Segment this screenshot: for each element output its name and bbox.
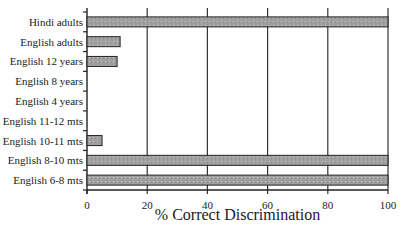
- bar: [87, 155, 388, 165]
- category-label: English 4 years: [15, 95, 83, 107]
- bar-chart: Hindi adultsEnglish adultsEnglish 12 yea…: [0, 0, 401, 234]
- x-axis-title: % Correct Discrimination: [87, 206, 388, 224]
- category-label: English 11-12 mts: [3, 115, 83, 127]
- category-label: English 8-10 mts: [8, 154, 83, 166]
- category-label: English 6-8 mts: [13, 174, 83, 186]
- category-label: Hindi adults: [29, 16, 83, 28]
- bar: [87, 136, 102, 146]
- category-label: English 10-11 mts: [3, 135, 83, 147]
- bar: [87, 175, 388, 185]
- category-label: English 8 years: [15, 75, 83, 87]
- bar: [87, 37, 120, 47]
- bar: [87, 56, 117, 66]
- bar: [87, 17, 388, 27]
- category-label: English 12 years: [10, 55, 83, 67]
- category-label: English adults: [20, 36, 83, 48]
